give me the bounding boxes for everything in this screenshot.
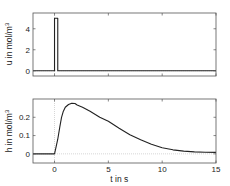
h-plot: 05101500.10.2h in mol/m3t in s: [4, 99, 221, 184]
series-h-line: [33, 103, 216, 154]
series-u-line: [33, 18, 216, 71]
y-tick-label: 2: [26, 46, 31, 55]
chart-figure: 024u in mol/m3 05101500.10.2h in mol/m3t…: [0, 0, 230, 186]
y-tick-label: 4: [26, 25, 31, 34]
x-tick-label: 5: [106, 165, 111, 174]
y-axis-label: u in mol/m3: [4, 22, 14, 65]
u-plot: 024u in mol/m3: [4, 13, 216, 76]
axes-frame: [33, 13, 216, 76]
y-axis-label: h in mol/m3: [4, 109, 14, 152]
y-tick-label: 0: [26, 67, 31, 76]
x-tick-label: 0: [52, 165, 57, 174]
y-tick-label: 0.2: [19, 113, 31, 122]
x-tick-label: 15: [212, 165, 221, 174]
y-tick-label: 0: [26, 150, 31, 159]
y-tick-label: 0.1: [19, 131, 31, 140]
x-tick-label: 10: [158, 165, 167, 174]
x-axis-label: t in s: [110, 174, 128, 184]
